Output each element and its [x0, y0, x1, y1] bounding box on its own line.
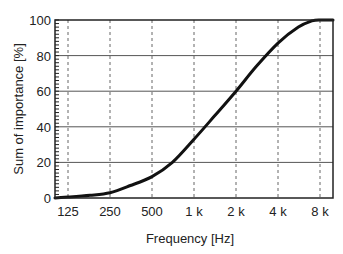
x-tick-label: 8 k: [311, 204, 329, 219]
y-axis-title: Sum of importance [%]: [11, 43, 26, 175]
x-tick-label: 2 k: [227, 204, 245, 219]
y-tick-label: 100: [29, 13, 51, 28]
y-tick-label: 20: [37, 155, 51, 170]
x-tick-label: 500: [141, 204, 163, 219]
x-tick-labels: 1252505001 k2 k4 k8 k: [57, 204, 329, 219]
x-tick-label: 4 k: [269, 204, 287, 219]
y-tick-labels: 020406080100: [29, 13, 51, 206]
chart: 020406080100 1252505001 k2 k4 k8 k Frequ…: [0, 0, 343, 254]
vertical-gridlines: [68, 20, 320, 198]
y-tick-label: 80: [37, 49, 51, 64]
y-tick-label: 60: [37, 84, 51, 99]
x-tick-label: 250: [99, 204, 121, 219]
x-tick-label: 125: [57, 204, 79, 219]
y-tick-label: 0: [44, 191, 51, 206]
y-tick-label: 40: [37, 120, 51, 135]
x-tick-label: 1 k: [185, 204, 203, 219]
x-axis-title: Frequency [Hz]: [146, 231, 234, 246]
